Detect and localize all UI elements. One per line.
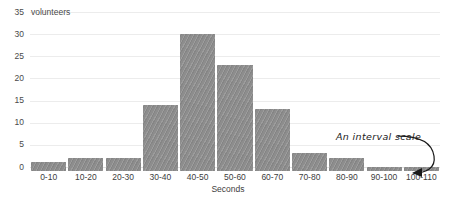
y-axis-tick-label: 10 (0, 118, 24, 127)
bar[interactable] (106, 158, 141, 171)
y-axis-tick-label: 35 (0, 8, 24, 17)
bar[interactable] (68, 158, 103, 171)
bar-series (30, 8, 440, 171)
bar[interactable] (143, 105, 178, 171)
x-axis-title: Seconds (0, 184, 456, 194)
y-axis-tick-label: 0 (0, 163, 24, 172)
y-axis-tick-label: 15 (0, 96, 24, 105)
bar[interactable] (367, 167, 402, 171)
y-axis-tick-label: 5 (0, 140, 24, 149)
bar[interactable] (217, 65, 252, 171)
bar[interactable] (255, 109, 290, 171)
bar[interactable] (329, 158, 364, 171)
y-axis-tick-label: 30 (0, 30, 24, 39)
y-axis-tick-label: 25 (0, 52, 24, 61)
bar[interactable] (31, 162, 66, 171)
histogram-screenshot: 35302520151050 volunteers 0-1010-2020-30… (0, 0, 456, 199)
annotation-label: An interval scale (336, 131, 421, 142)
bar[interactable] (292, 153, 327, 171)
bar[interactable] (404, 167, 439, 171)
x-axis-tick-label: 100-110 (399, 172, 444, 182)
bar[interactable] (180, 34, 215, 171)
y-axis-tick-label: 20 (0, 74, 24, 83)
